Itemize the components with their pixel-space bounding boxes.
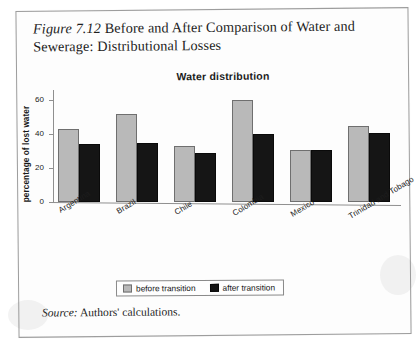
x-axis-labels: ArgentinaBrazilChileColombiaMexicoTrinid… <box>53 207 403 277</box>
y-axis-tick-label: 0 <box>40 197 44 206</box>
bar-before <box>348 126 369 202</box>
bar-before <box>116 114 137 202</box>
bar-after <box>311 150 332 202</box>
x-axis-line <box>50 202 401 206</box>
legend-item-before: before transition <box>123 283 196 294</box>
source-text: Authors' calculations. <box>78 305 181 319</box>
chart: Water distribution percentage of lost wa… <box>0 0 420 344</box>
bar-before <box>290 150 311 202</box>
chart-legend: before transition after transition <box>116 279 284 296</box>
y-axis-tick: 0 <box>49 202 53 203</box>
legend-swatch-before-icon <box>123 284 132 292</box>
legend-item-after: after transition <box>209 282 275 292</box>
legend-swatch-after-icon <box>209 284 218 292</box>
y-axis-label: percentage of lost water <box>22 98 31 210</box>
y-axis-tick-label: 20 <box>35 163 44 172</box>
page-content: Figure 7.12 Before and After Comparison … <box>0 0 420 344</box>
scanned-page: Figure 7.12 Before and After Comparison … <box>0 0 420 344</box>
legend-label-after: after transition <box>222 282 275 292</box>
bar-before <box>232 100 253 202</box>
y-axis-tick: 60 <box>49 100 53 101</box>
bar-after <box>137 143 158 202</box>
y-axis-tick-label: 60 <box>35 95 44 104</box>
bar-before <box>58 129 79 202</box>
chart-title: Water distribution <box>13 69 420 84</box>
y-axis-line <box>53 90 54 203</box>
plot-area: 0204060 <box>53 90 401 203</box>
source-label: Source: <box>42 306 78 319</box>
source-note: Source: Authors' calculations. <box>42 305 181 319</box>
y-axis-tick: 20 <box>49 168 53 169</box>
legend-label-before: before transition <box>136 283 196 293</box>
bar-after <box>195 153 216 202</box>
y-axis-tick: 40 <box>49 134 53 135</box>
bar-before <box>174 146 195 202</box>
y-axis-tick-label: 40 <box>35 129 44 138</box>
bar-after <box>253 134 274 202</box>
